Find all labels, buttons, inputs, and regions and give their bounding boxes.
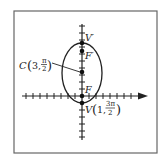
svg-text:2: 2	[42, 65, 46, 73]
vertex-coordinate-label: V ( 1, 3π 2 )	[85, 100, 121, 117]
svg-text:1,: 1,	[97, 104, 106, 115]
center-leader-line	[52, 63, 80, 72]
polar-axis-arrow-icon	[138, 93, 148, 100]
label-f: F	[84, 84, 92, 95]
focus-f-prime-point	[80, 49, 85, 54]
label-v-prime: V′	[85, 32, 95, 43]
focus-f-point	[80, 94, 85, 99]
svg-text:): )	[47, 58, 52, 73]
vertex-v-point	[80, 101, 85, 106]
ellipse-diagram: V′ F′ F C ( 3, π 2 ) V ( 1, 3π 2 )	[0, 0, 168, 161]
vertex-v-prime-point	[80, 41, 85, 46]
svg-text:): )	[116, 102, 121, 117]
svg-text:3π: 3π	[106, 100, 115, 108]
center-c-point	[80, 70, 85, 75]
polar-ellipse-figure: V′ F′ F C ( 3, π 2 ) V ( 1, 3π 2 )	[0, 0, 168, 161]
center-coordinate-label: C ( 3, π 2 )	[19, 57, 52, 73]
svg-text:C: C	[19, 60, 27, 71]
svg-text:3,: 3,	[32, 60, 41, 71]
svg-text:2: 2	[108, 109, 112, 117]
label-f-prime: F′	[84, 50, 95, 61]
